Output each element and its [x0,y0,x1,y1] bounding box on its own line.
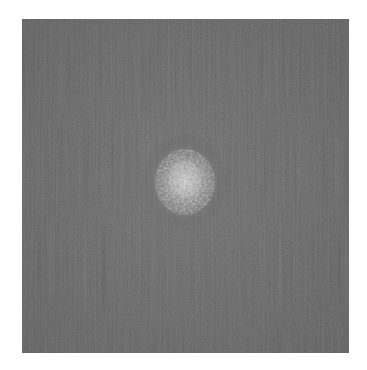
speckle-image [22,19,349,353]
speckle-image-panel [22,19,349,353]
image-canvas [0,0,367,370]
blob-core [169,161,201,197]
